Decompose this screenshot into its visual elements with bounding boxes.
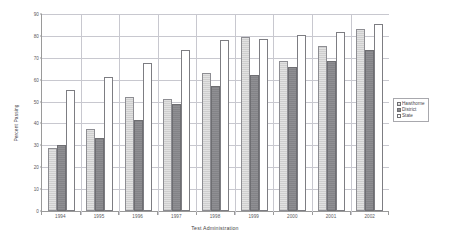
bar-group-2001	[312, 14, 351, 211]
plot-area: 0102030405060708090	[41, 14, 389, 212]
x-tick-label-2000: 2000	[273, 214, 312, 219]
bar-group-1995	[81, 14, 120, 211]
bar-hawthorne-1997	[163, 99, 172, 211]
bar-district-1999	[250, 75, 259, 211]
bar-group-1994	[42, 14, 81, 211]
x-tick-label-1995: 1995	[80, 214, 119, 219]
y-tick-label: 90	[34, 12, 39, 17]
legend-swatch-icon	[397, 108, 401, 112]
y-axis-title: Percent Passing	[14, 104, 19, 141]
y-tick-label: 50	[34, 99, 39, 104]
bar-hawthorne-1994	[48, 148, 57, 211]
legend-label: Hawthorne	[402, 102, 425, 107]
bar-state-1996	[143, 63, 152, 211]
x-tick-label-1997: 1997	[157, 214, 196, 219]
y-tick-label: 30	[34, 143, 39, 148]
bar-groups	[42, 14, 389, 211]
x-axis-labels: 199419951996199719981999200020012002	[41, 214, 389, 219]
x-tick-label-1994: 1994	[41, 214, 80, 219]
bar-district-2000	[288, 67, 297, 211]
legend-label: State	[402, 114, 413, 119]
bar-group-1997	[158, 14, 197, 211]
y-tick-label: 40	[34, 121, 39, 126]
bar-hawthorne-2000	[279, 61, 288, 211]
bar-state-1998	[220, 40, 229, 211]
bar-district-1998	[211, 86, 220, 211]
bar-hawthorne-2001	[318, 46, 327, 211]
bar-district-2001	[327, 61, 336, 211]
bar-hawthorne-1995	[86, 129, 95, 211]
bar-group-2002	[351, 14, 390, 211]
bar-hawthorne-1998	[202, 73, 211, 211]
y-tick-label: 20	[34, 165, 39, 170]
x-tick-label-1998: 1998	[196, 214, 235, 219]
bar-district-1996	[134, 120, 143, 211]
bar-hawthorne-1999	[241, 37, 250, 211]
legend-item-hawthorne[interactable]: Hawthorne	[397, 102, 425, 107]
bar-district-1997	[172, 104, 181, 211]
y-tick-label: 60	[34, 77, 39, 82]
bar-state-2000	[297, 35, 306, 211]
x-tick-label-2002: 2002	[350, 214, 389, 219]
bar-group-1998	[196, 14, 235, 211]
bar-state-1999	[259, 39, 268, 211]
y-tick-label: 0	[36, 209, 39, 214]
bar-state-1994	[66, 90, 75, 211]
bar-state-1997	[181, 50, 190, 211]
y-tick-label: 70	[34, 55, 39, 60]
x-axis-title: Test Administration	[41, 225, 389, 231]
legend: HawthorneDistrictState	[393, 98, 429, 122]
bar-state-2002	[374, 24, 383, 211]
legend-swatch-icon	[397, 102, 401, 106]
bar-district-1995	[95, 138, 104, 211]
bar-state-1995	[104, 77, 113, 211]
legend-swatch-icon	[397, 114, 401, 118]
bar-state-2001	[336, 32, 345, 211]
x-tick-label-1996: 1996	[118, 214, 157, 219]
bar-group-1996	[119, 14, 158, 211]
legend-label: District	[402, 108, 416, 113]
y-tick-label: 10	[34, 187, 39, 192]
x-tick-label-1999: 1999	[234, 214, 273, 219]
legend-item-state[interactable]: State	[397, 114, 425, 119]
bar-chart: Percent Passing 0102030405060708090 1994…	[0, 0, 461, 245]
x-tick-label-2001: 2001	[312, 214, 351, 219]
bar-hawthorne-1996	[125, 97, 134, 211]
bar-group-2000	[273, 14, 312, 211]
bar-district-1994	[57, 145, 66, 211]
legend-item-district[interactable]: District	[397, 108, 425, 113]
y-tick-label: 80	[34, 33, 39, 38]
bar-group-1999	[235, 14, 274, 211]
bar-district-2002	[365, 50, 374, 211]
bar-hawthorne-2002	[356, 29, 365, 211]
